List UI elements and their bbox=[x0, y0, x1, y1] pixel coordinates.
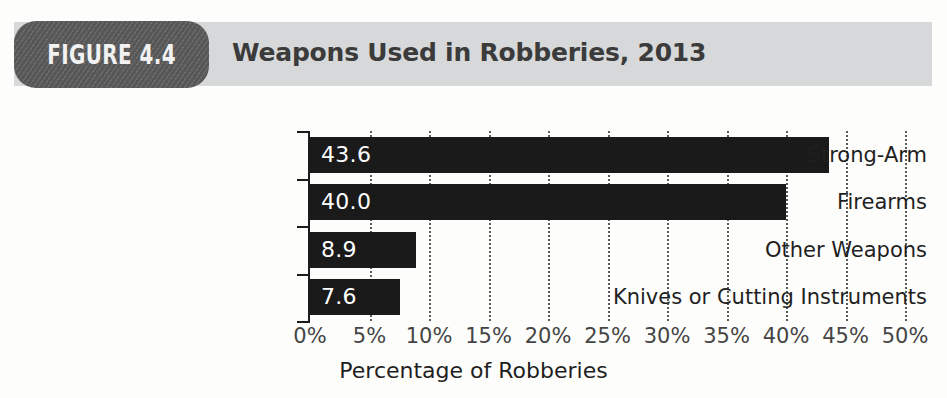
y-axis-tick bbox=[297, 321, 308, 323]
bar bbox=[310, 137, 829, 173]
bar-row: 40.0 bbox=[310, 184, 786, 220]
x-tick-label: 0% bbox=[293, 324, 326, 348]
x-tick-label: 40% bbox=[763, 324, 810, 348]
x-tick-label: 50% bbox=[882, 324, 929, 348]
x-tick-label: 30% bbox=[644, 324, 691, 348]
bar-row: 7.6 bbox=[310, 279, 400, 315]
category-label: Knives or Cutting Instruments bbox=[613, 279, 927, 315]
y-axis-tick bbox=[297, 179, 308, 181]
bar-value-label: 40.0 bbox=[321, 184, 371, 220]
y-axis-tick bbox=[297, 226, 308, 228]
figure-number-label: FIGURE 4.4 bbox=[47, 39, 176, 70]
x-axis-title: Percentage of Robberies bbox=[0, 358, 947, 383]
category-label: Other Weapons bbox=[765, 232, 927, 268]
category-label: Strong-Arm bbox=[808, 137, 927, 173]
bar-row: 8.9 bbox=[310, 232, 416, 268]
x-tick-label: 45% bbox=[822, 324, 869, 348]
bar-value-label: 43.6 bbox=[321, 137, 371, 173]
x-tick-label: 35% bbox=[703, 324, 750, 348]
x-tick-label: 10% bbox=[406, 324, 453, 348]
bar-value-label: 7.6 bbox=[321, 279, 357, 315]
x-tick-label: 5% bbox=[353, 324, 386, 348]
figure-number-badge: FIGURE 4.4 bbox=[14, 21, 209, 88]
x-tick-label: 15% bbox=[465, 324, 512, 348]
y-axis-tick bbox=[297, 131, 308, 133]
bar-chart: Percentage of Robberies 0%5%10%15%20%25%… bbox=[0, 100, 947, 398]
bar-value-label: 8.9 bbox=[321, 232, 357, 268]
figure-header: FIGURE 4.4 Weapons Used in Robberies, 20… bbox=[0, 0, 947, 100]
y-axis-tick bbox=[297, 274, 308, 276]
x-tick-label: 20% bbox=[525, 324, 572, 348]
figure-title: Weapons Used in Robberies, 2013 bbox=[232, 38, 706, 67]
bar-row: 43.6 bbox=[310, 137, 829, 173]
category-label: Firearms bbox=[837, 184, 927, 220]
bar bbox=[310, 184, 786, 220]
x-tick-label: 25% bbox=[584, 324, 631, 348]
